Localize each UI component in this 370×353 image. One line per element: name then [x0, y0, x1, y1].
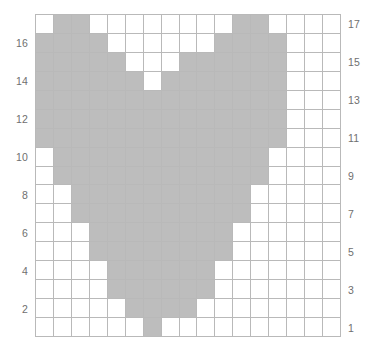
grid-cell[interactable] — [287, 110, 305, 129]
grid-cell[interactable] — [197, 318, 215, 337]
grid-cell[interactable] — [54, 148, 72, 167]
grid-cell[interactable] — [72, 15, 90, 34]
grid-cell[interactable] — [144, 34, 162, 53]
grid-cell[interactable] — [323, 261, 341, 280]
grid-cell[interactable] — [36, 242, 54, 261]
grid-cell[interactable] — [287, 185, 305, 204]
grid-cell[interactable] — [90, 167, 108, 186]
grid-cell[interactable] — [54, 204, 72, 223]
grid-cell[interactable] — [251, 167, 269, 186]
grid-cell[interactable] — [126, 72, 144, 91]
grid-cell[interactable] — [287, 53, 305, 72]
grid-cell[interactable] — [108, 204, 126, 223]
grid-cell[interactable] — [233, 223, 251, 242]
grid-cell[interactable] — [305, 53, 323, 72]
grid-cell[interactable] — [323, 242, 341, 261]
grid-cell[interactable] — [180, 223, 198, 242]
grid-cell[interactable] — [215, 110, 233, 129]
grid-cell[interactable] — [108, 299, 126, 318]
grid-cell[interactable] — [251, 53, 269, 72]
grid-cell[interactable] — [72, 185, 90, 204]
grid-cell[interactable] — [269, 204, 287, 223]
grid-cell[interactable] — [269, 110, 287, 129]
grid-cell[interactable] — [323, 15, 341, 34]
grid-cell[interactable] — [180, 299, 198, 318]
grid-cell[interactable] — [108, 223, 126, 242]
grid-cell[interactable] — [162, 53, 180, 72]
grid-cell[interactable] — [162, 242, 180, 261]
grid-cell[interactable] — [251, 110, 269, 129]
grid-cell[interactable] — [162, 280, 180, 299]
grid-cell[interactable] — [180, 280, 198, 299]
grid-cell[interactable] — [108, 185, 126, 204]
grid-cell[interactable] — [323, 318, 341, 337]
grid-cell[interactable] — [54, 91, 72, 110]
grid-cell[interactable] — [269, 299, 287, 318]
grid-cell[interactable] — [215, 167, 233, 186]
grid-cell[interactable] — [90, 15, 108, 34]
grid-cell[interactable] — [72, 53, 90, 72]
grid-cell[interactable] — [305, 280, 323, 299]
grid-cell[interactable] — [233, 110, 251, 129]
grid-cell[interactable] — [180, 204, 198, 223]
grid-cell[interactable] — [72, 261, 90, 280]
grid-cell[interactable] — [233, 15, 251, 34]
grid-cell[interactable] — [215, 318, 233, 337]
grid-cell[interactable] — [90, 280, 108, 299]
grid-cell[interactable] — [197, 15, 215, 34]
grid-cell[interactable] — [108, 167, 126, 186]
grid-cell[interactable] — [126, 223, 144, 242]
grid-cell[interactable] — [54, 53, 72, 72]
grid-cell[interactable] — [36, 91, 54, 110]
grid-cell[interactable] — [54, 129, 72, 148]
grid-cell[interactable] — [215, 53, 233, 72]
grid-cell[interactable] — [287, 318, 305, 337]
grid-cell[interactable] — [215, 223, 233, 242]
grid-cell[interactable] — [180, 242, 198, 261]
grid-cell[interactable] — [126, 299, 144, 318]
grid-cell[interactable] — [287, 167, 305, 186]
grid-cell[interactable] — [287, 34, 305, 53]
grid-cell[interactable] — [144, 148, 162, 167]
grid-cell[interactable] — [36, 204, 54, 223]
grid-cell[interactable] — [233, 129, 251, 148]
grid-cell[interactable] — [269, 261, 287, 280]
grid-cell[interactable] — [323, 280, 341, 299]
grid-cell[interactable] — [54, 185, 72, 204]
grid-cell[interactable] — [126, 261, 144, 280]
grid-cell[interactable] — [90, 53, 108, 72]
grid-cell[interactable] — [144, 72, 162, 91]
grid-cell[interactable] — [144, 280, 162, 299]
grid-cell[interactable] — [180, 91, 198, 110]
grid-cell[interactable] — [90, 223, 108, 242]
grid-cell[interactable] — [90, 110, 108, 129]
grid-cell[interactable] — [108, 129, 126, 148]
grid-cell[interactable] — [72, 72, 90, 91]
grid-cell[interactable] — [144, 261, 162, 280]
grid-cell[interactable] — [251, 34, 269, 53]
grid-cell[interactable] — [108, 242, 126, 261]
grid-cell[interactable] — [180, 185, 198, 204]
grid-cell[interactable] — [287, 204, 305, 223]
grid-cell[interactable] — [215, 148, 233, 167]
grid-cell[interactable] — [287, 223, 305, 242]
grid-cell[interactable] — [197, 242, 215, 261]
grid-cell[interactable] — [144, 167, 162, 186]
grid-cell[interactable] — [54, 318, 72, 337]
grid-cell[interactable] — [305, 185, 323, 204]
grid-cell[interactable] — [305, 204, 323, 223]
grid-cell[interactable] — [251, 223, 269, 242]
grid-cell[interactable] — [233, 185, 251, 204]
grid-cell[interactable] — [54, 299, 72, 318]
grid-cell[interactable] — [144, 242, 162, 261]
grid-cell[interactable] — [251, 15, 269, 34]
grid-cell[interactable] — [36, 53, 54, 72]
grid-cell[interactable] — [287, 261, 305, 280]
grid-cell[interactable] — [215, 185, 233, 204]
grid-cell[interactable] — [90, 129, 108, 148]
grid-cell[interactable] — [144, 299, 162, 318]
grid-cell[interactable] — [126, 204, 144, 223]
grid-cell[interactable] — [126, 110, 144, 129]
grid-cell[interactable] — [162, 261, 180, 280]
grid-cell[interactable] — [305, 129, 323, 148]
